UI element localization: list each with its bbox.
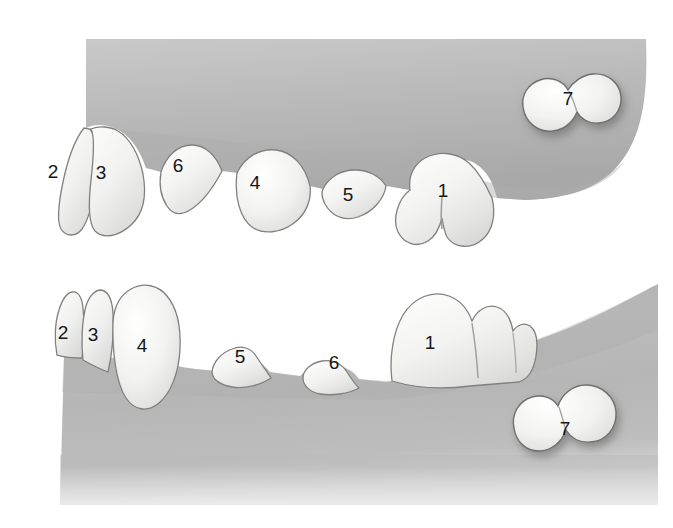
upper-tooth-1-groove: [441, 197, 442, 229]
lower-tooth-3-label: 3: [88, 324, 99, 345]
upper-tooth-5-label: 5: [343, 184, 354, 205]
lower-tooth-2-label: 2: [58, 322, 69, 343]
lower-tooth-7-label: 7: [560, 418, 571, 439]
lower-tooth-4-label: 4: [137, 335, 148, 356]
upper-tooth-6-label: 6: [173, 155, 184, 176]
lower-tooth-5-label: 5: [235, 346, 246, 367]
upper-tooth-2-label: 2: [48, 161, 59, 182]
lower-tooth-6-label: 6: [329, 352, 340, 373]
upper-tooth-1-label: 1: [438, 180, 449, 201]
dental-diagram-figure: 2 3 6 4 5 1 7 2 3 4 5 6 1 7: [0, 0, 673, 528]
upper-tooth-3-label: 3: [96, 162, 107, 183]
upper-tooth-4-label: 4: [250, 172, 261, 193]
lower-gum-shading-lower: [60, 455, 658, 505]
lower-tooth-1-label: 1: [425, 332, 436, 353]
upper-tooth-7-label: 7: [563, 88, 574, 109]
dental-illustration: 2 3 6 4 5 1 7 2 3 4 5 6 1 7: [0, 0, 673, 528]
